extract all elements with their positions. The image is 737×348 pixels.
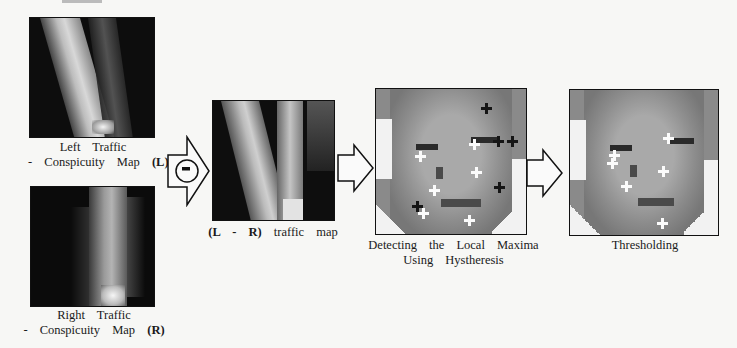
left-map-caption: Left Traffic - Conspicuity Map (L) (28, 140, 158, 170)
arrow-right-icon (336, 143, 376, 193)
difference-map-caption-text: traffic map (274, 225, 338, 239)
local-maximum-marker (469, 139, 480, 150)
threshold-maximum-marker (658, 166, 669, 177)
threshold-maximum-marker (663, 133, 674, 144)
thresholding-face-image (569, 89, 719, 236)
left-traffic-conspicuity-map (29, 17, 155, 138)
threshold-maximum-marker (621, 181, 632, 192)
local-maxima-caption-line1: Detecting the Local Maxima (366, 238, 541, 253)
rejected-maximum-marker (494, 182, 505, 193)
local-maxima-caption-line2: Using Hystheresis (366, 253, 541, 268)
subtract-arrow-icon (165, 135, 211, 207)
local-maximum-marker (471, 167, 482, 178)
right-traffic-conspicuity-map (30, 186, 155, 307)
top-edge-fragment (62, 0, 102, 3)
right-map-caption-line2: - Conspicuity Map (23, 323, 135, 337)
left-map-caption-line2: - Conspicuity Map (28, 155, 140, 169)
rejected-maximum-marker (507, 136, 518, 147)
threshold-maximum-marker (657, 218, 668, 229)
right-map-caption: Right Traffic - Conspicuity Map (R) (14, 308, 174, 338)
rejected-maximum-marker (481, 103, 492, 114)
difference-map-symbol: (L - R) (208, 225, 261, 239)
right-map-symbol: (R) (147, 323, 164, 337)
local-maxima-face-image (375, 88, 527, 235)
right-map-caption-line1: Right Traffic (14, 308, 174, 323)
rejected-maximum-marker (493, 136, 504, 147)
local-maximum-marker (464, 215, 475, 226)
arrow-right-icon (525, 148, 565, 198)
local-maximum-marker (429, 185, 440, 196)
threshold-maximum-marker (607, 158, 618, 169)
left-map-caption-line1: Left Traffic (28, 140, 158, 155)
thresholding-caption: Thresholding (575, 238, 715, 253)
local-maxima-caption: Detecting the Local Maxima Using Hysther… (366, 238, 541, 268)
local-maximum-marker (415, 151, 426, 162)
rejected-maximum-marker (412, 201, 423, 212)
difference-map-caption: (L - R) traffic map (208, 225, 338, 240)
difference-traffic-map (212, 100, 335, 221)
